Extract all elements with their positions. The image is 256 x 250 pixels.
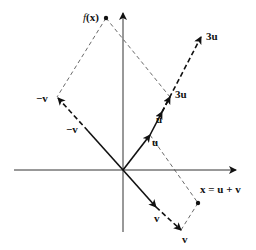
vector-3u-mid xyxy=(162,97,170,112)
point-fx xyxy=(104,16,108,20)
label-fx: f(x) xyxy=(83,12,99,23)
label-neg-v-inner: −v xyxy=(66,124,78,135)
vector-u xyxy=(123,135,150,170)
dashed-fx-to-neg-v xyxy=(57,18,106,97)
label-x-eq: x = u + v xyxy=(200,184,241,195)
label-3u-mid: 3u xyxy=(175,89,187,100)
label-v-inner: v xyxy=(154,213,160,224)
label-neg-v-outer: −v xyxy=(36,93,48,104)
dashed-x-to-v xyxy=(181,203,198,230)
label-fx-arg: (x) xyxy=(86,11,99,23)
vector-neg-v xyxy=(88,131,123,170)
point-x xyxy=(196,201,200,205)
label-v-outer: v xyxy=(182,234,188,245)
label-u-upper: u xyxy=(156,114,162,125)
vector-v xyxy=(123,170,156,207)
label-3u-top: 3u xyxy=(206,31,218,42)
dashed-fx-to-3u xyxy=(106,18,170,97)
label-u-lower: u xyxy=(152,137,158,148)
